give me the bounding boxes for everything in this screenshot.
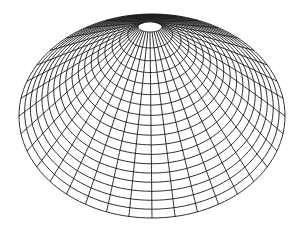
radial-line	[154, 32, 197, 212]
radial-line	[162, 28, 283, 134]
radial-line	[156, 31, 219, 204]
radial-line	[107, 32, 146, 212]
radial-lines	[19, 14, 285, 218]
radial-line	[21, 28, 138, 134]
wireframe-surface	[0, 0, 301, 227]
